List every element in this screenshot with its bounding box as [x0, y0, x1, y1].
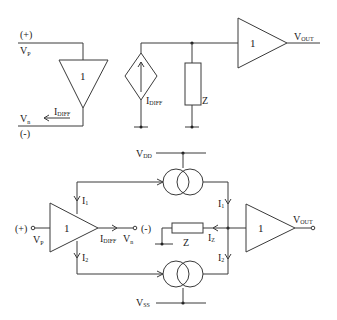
bottom-circuit: VDD VSS (+) VP 1 I1 I2 ID: [15, 148, 315, 308]
ground-node: [161, 243, 164, 246]
i1-left-wire: [77, 182, 163, 214]
top-vp-label: VP: [20, 45, 31, 57]
bottom-input-plus-label: (+): [15, 223, 27, 235]
top-vout-label: VOUT: [294, 31, 314, 42]
top-z-label: Z: [202, 95, 208, 106]
i2-right-label: I2: [218, 252, 224, 263]
circuit-diagram: (+) VP 1 Vn (-) IDIFF IDIFF Z 1 VO: [0, 0, 337, 320]
vdd-label: VDD: [136, 148, 153, 159]
impedance-z: [185, 63, 201, 105]
impedance-z: [172, 223, 203, 233]
top-input-plus-label: (+): [20, 29, 32, 41]
top-vn-label: Vn: [20, 113, 30, 125]
i2-left-label: I2: [82, 252, 88, 263]
bottom-output-buffer-gain: 1: [258, 222, 264, 234]
bottom-input-buffer-gain: 1: [64, 222, 70, 234]
top-output-buffer: [238, 18, 287, 68]
lower-current-source-circle-b: [177, 261, 203, 287]
top-idiff-label: IDIFF: [54, 106, 71, 117]
ground-node: [191, 126, 194, 129]
top-input-buffer: [59, 60, 108, 108]
iz-label: IZ: [208, 232, 215, 243]
vn-terminal: [133, 226, 137, 230]
top-input-minus-label: (-): [20, 128, 30, 140]
top-output-buffer-gain: 1: [250, 37, 256, 49]
i1-left-label: I1: [82, 195, 88, 206]
vout-terminal: [311, 226, 315, 230]
bottom-output-buffer: [246, 204, 295, 252]
ground-node: [140, 126, 143, 129]
vp-input-terminal: [31, 226, 35, 230]
i1-right-label: I1: [218, 198, 224, 209]
top-circuit: (+) VP 1 Vn (-) IDIFF IDIFF Z 1 VO: [18, 18, 320, 140]
bottom-input-minus-label: (-): [141, 223, 151, 235]
upper-current-source-circle-b: [177, 169, 203, 195]
lower-current-source-circle-a: [163, 261, 189, 287]
bottom-vout-label: VOUT: [293, 214, 313, 225]
bottom-idiff-label: IDIFF: [100, 233, 117, 244]
internal-node-wire: [141, 43, 240, 53]
bottom-z-label: Z: [183, 237, 189, 248]
bottom-input-buffer: [50, 203, 98, 252]
bottom-vp-label: VP: [33, 234, 44, 246]
source-idiff-label: IDIFF: [146, 95, 163, 106]
i2-left-wire: [77, 241, 163, 274]
top-input-buffer-gain: 1: [80, 70, 86, 82]
upper-current-source-circle-a: [163, 169, 189, 195]
z-ground-wire: [162, 228, 172, 244]
vss-label: VSS: [136, 297, 150, 308]
bottom-vn-label: Vn: [123, 233, 133, 245]
